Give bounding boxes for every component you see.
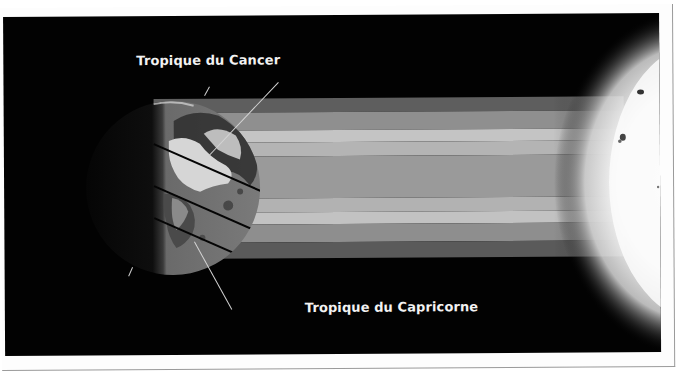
tropic-capricorne-label: Tropique du Capricorne [305, 299, 478, 315]
tropic-cancer-label: Tropique du Cancer [136, 52, 280, 68]
sun [553, 13, 661, 356]
figure-card: Tropique du Cancer Tropique du Capricorn… [0, 4, 675, 371]
diagram-panel: Tropique du Cancer Tropique du Capricorn… [3, 13, 661, 356]
